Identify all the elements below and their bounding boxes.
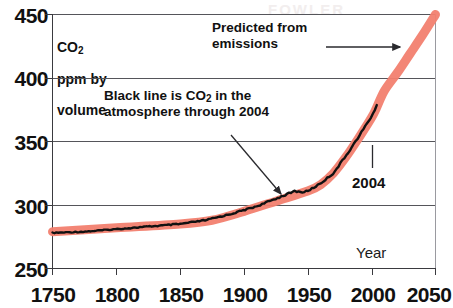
y-axis-title-line3: volume: [57, 103, 107, 119]
y-tick-450: 450: [2, 5, 48, 26]
y-tick-250: 250: [2, 259, 48, 280]
co2-concentration-chart: FOWLER 450 400 350 300 250 1750 1800 185…: [0, 0, 453, 308]
annotation-arrows: [231, 47, 400, 194]
x-tick-1950: 1950: [287, 284, 332, 305]
x-tick-2050: 2050: [407, 284, 452, 305]
observed-annotation-text: Black line is CO2 in the atmosphere thro…: [104, 88, 269, 120]
x-tick-1800: 1800: [95, 284, 140, 305]
x-tick-1750: 1750: [31, 284, 76, 305]
endpoint-label-2004: 2004: [352, 175, 385, 190]
y-tick-400: 400: [2, 68, 48, 89]
predicted-annotation-line2: emissions: [212, 36, 307, 52]
observed-annotation-subscript: 2: [206, 93, 212, 104]
y-tick-300: 300: [2, 196, 48, 217]
y-axis-title: CO2 ppm by volume: [57, 9, 107, 134]
predicted-annotation-line1: Predicted from: [212, 20, 307, 36]
x-tick-2000: 2000: [351, 284, 396, 305]
observed-annotation-arrow: [231, 135, 281, 194]
x-axis-title: Year: [356, 245, 386, 260]
predicted-annotation-text: Predicted from emissions: [212, 20, 307, 52]
y-axis-tick-labels: 450 400 350 300 250: [0, 0, 48, 308]
y-axis-title-line1: CO2: [57, 25, 107, 56]
scan-watermark: FOWLER: [268, 2, 345, 17]
x-tick-1900: 1900: [223, 284, 268, 305]
y-tick-350: 350: [2, 132, 48, 153]
y-axis-title-line2: ppm by: [57, 72, 107, 88]
observed-annotation-line2: atmosphere through 2004: [104, 104, 269, 120]
y-axis-title-subscript: 2: [78, 45, 84, 56]
x-tick-1850: 1850: [159, 284, 204, 305]
observed-annotation-line1: Black line is CO2 in the: [104, 88, 269, 104]
x-axis-ticks: [53, 268, 436, 275]
